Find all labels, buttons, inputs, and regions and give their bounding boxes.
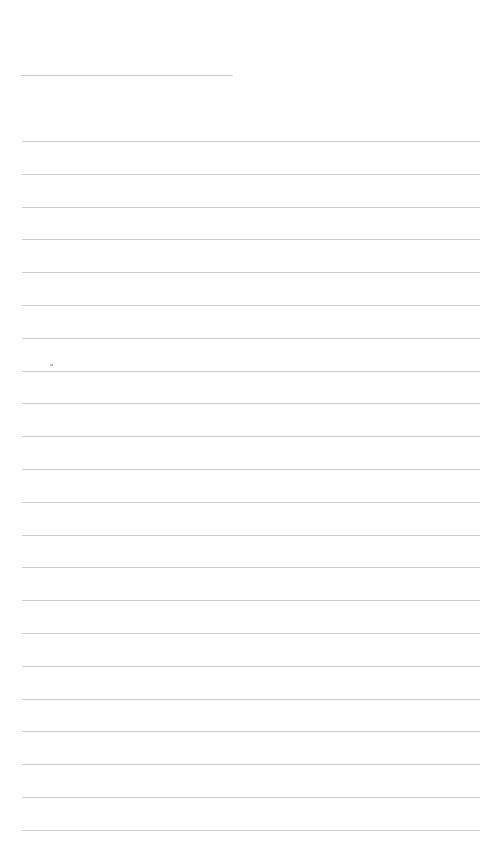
ruled-line — [22, 830, 480, 831]
ruled-line — [22, 403, 480, 404]
ruled-line — [22, 469, 480, 470]
ruled-line — [22, 436, 480, 437]
ruled-line — [22, 207, 480, 208]
ruled-line — [22, 305, 480, 306]
ruled-line — [22, 272, 480, 273]
lined-paper-page — [0, 0, 504, 861]
ruled-line — [22, 141, 480, 142]
ruled-line — [22, 567, 480, 568]
ruled-line — [22, 731, 480, 732]
ruled-line — [22, 338, 480, 339]
ruled-line — [22, 174, 480, 175]
title-line — [21, 75, 233, 76]
ruled-line — [22, 764, 480, 765]
ruled-line — [22, 797, 480, 798]
ruled-line — [22, 535, 480, 536]
ink-speck — [50, 364, 53, 366]
ruled-line — [22, 371, 480, 372]
ruled-line — [22, 633, 480, 634]
ruled-line — [22, 699, 480, 700]
ruled-line — [22, 600, 480, 601]
ruled-line — [22, 239, 480, 240]
ruled-line — [22, 502, 480, 503]
ruled-line — [22, 666, 480, 667]
